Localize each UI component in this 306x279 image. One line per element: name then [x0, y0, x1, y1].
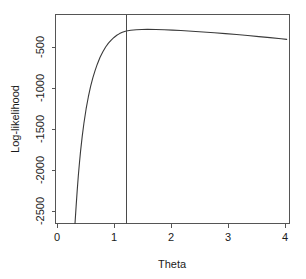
log-likelihood-curve	[75, 29, 287, 223]
plot-canvas: -500 -1000 -1500 -2000 -2500 0 1 2 3 4 T…	[0, 0, 306, 279]
y-axis-tick-labels: -500 -1000 -1500 -2000 -2500	[34, 36, 46, 225]
log-likelihood-plot: -500 -1000 -1500 -2000 -2500 0 1 2 3 4 T…	[0, 0, 306, 279]
x-axis-ticks	[58, 224, 286, 228]
y-tick-label: -2000	[34, 156, 46, 184]
y-tick-label: -2500	[34, 197, 46, 225]
x-tick-label: 2	[168, 231, 174, 243]
x-tick-label: 1	[111, 231, 117, 243]
x-axis-tick-labels: 0 1 2 3 4	[54, 231, 288, 243]
y-tick-label: -1500	[34, 115, 46, 143]
x-tick-label: 0	[54, 231, 60, 243]
y-axis-title: Log-likelihood	[9, 85, 21, 153]
y-axis-ticks	[52, 48, 56, 212]
y-tick-label: -1000	[34, 74, 46, 102]
plot-frame	[56, 15, 290, 224]
x-axis-title: Theta	[158, 258, 187, 270]
x-tick-label: 4	[282, 231, 288, 243]
y-tick-label: -500	[34, 36, 46, 58]
x-tick-label: 3	[225, 231, 231, 243]
